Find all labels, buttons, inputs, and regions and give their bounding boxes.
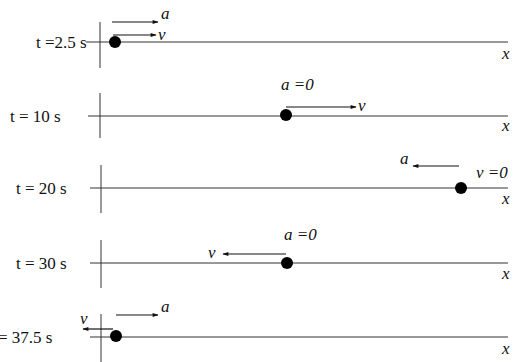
velocity-label: v [158, 25, 166, 44]
acceleration-label: a [400, 149, 409, 168]
row-t-2-5: t =2.5 s v a x [36, 4, 510, 68]
time-label: t = 30 s [16, 254, 67, 273]
particle-dot [110, 330, 122, 342]
velocity-label: v [208, 243, 216, 262]
particle-dot [281, 257, 293, 269]
time-label: t =2.5 s [36, 33, 87, 52]
time-label: t = 20 s [16, 179, 67, 198]
acceleration-label: a =0 [281, 75, 314, 94]
velocity-label: v =0 [476, 163, 508, 182]
acceleration-label: a =0 [284, 225, 317, 244]
row-t-30: t = 30 s v a =0 x [16, 225, 510, 288]
time-label: = 37.5 s [0, 328, 52, 347]
axis-label-x: x [501, 189, 510, 208]
particle-dot [109, 36, 121, 48]
particle-dot [455, 182, 467, 194]
axis-label-x: x [501, 116, 510, 135]
acceleration-label: a [161, 4, 170, 23]
velocity-label: v [358, 96, 366, 115]
velocity-label: v [80, 309, 88, 328]
acceleration-label: a [161, 297, 170, 316]
motion-diagram: t =2.5 s v a x t = 10 s v a =0 x t = 20 … [0, 0, 523, 362]
axis-label-x: x [501, 44, 510, 63]
row-t-37-5: = 37.5 s v a x [0, 297, 510, 362]
row-t-10: t = 10 s v a =0 x [10, 75, 510, 138]
particle-dot [280, 109, 292, 121]
time-label: t = 10 s [10, 107, 61, 126]
row-t-20: t = 20 s a v =0 x [16, 149, 510, 213]
axis-label-x: x [501, 264, 510, 283]
axis-label-x: x [501, 339, 510, 358]
